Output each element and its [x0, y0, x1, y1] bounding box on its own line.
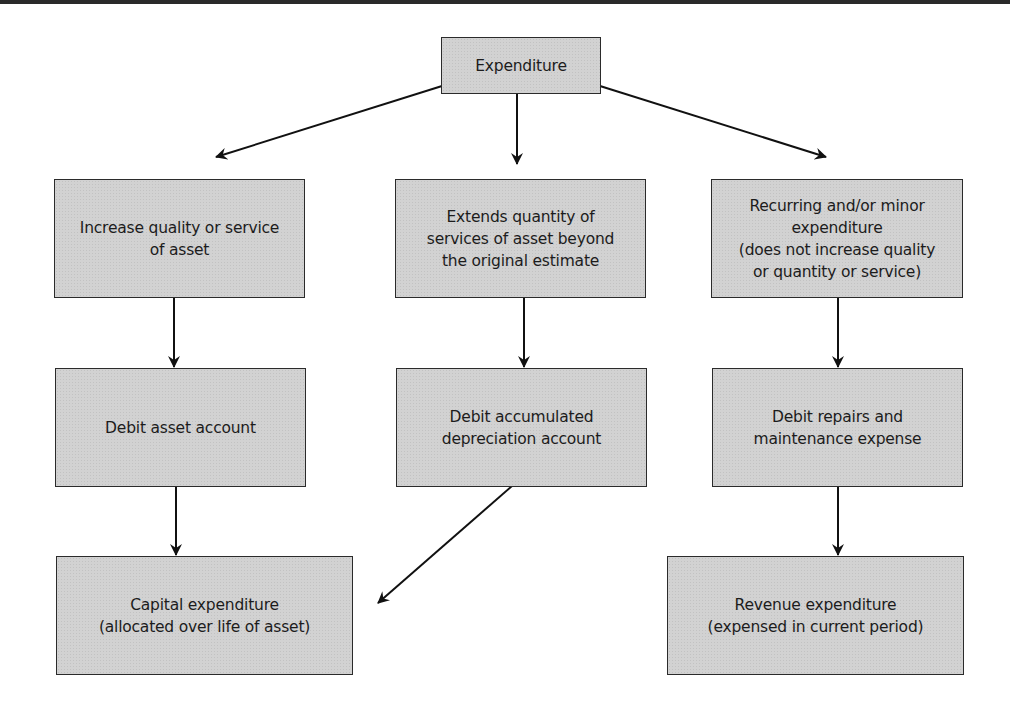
node-debit-accumulated-depreciation: Debit accumulated depreciation account	[396, 368, 647, 487]
node-label: Debit asset account	[105, 417, 256, 439]
node-label: Capital expenditure (allocated over life…	[99, 594, 310, 638]
node-extends-quantity: Extends quantity of services of asset be…	[395, 179, 646, 298]
node-label: Expenditure	[475, 55, 567, 77]
node-increase-quality: Increase quality or service of asset	[54, 179, 305, 298]
node-expenditure: Expenditure	[441, 37, 601, 94]
node-debit-asset: Debit asset account	[55, 368, 306, 487]
arrow-debit-depreciation-to-capital	[378, 486, 512, 603]
node-revenue-expenditure: Revenue expenditure (expensed in current…	[667, 556, 964, 675]
arrow-root-to-quality	[216, 86, 442, 157]
node-capital-expenditure: Capital expenditure (allocated over life…	[56, 556, 353, 675]
node-label: Revenue expenditure (expensed in current…	[708, 594, 924, 638]
node-label: Debit accumulated depreciation account	[442, 406, 601, 450]
node-recurring-minor: Recurring and/or minor expenditure (does…	[711, 179, 963, 298]
node-label: Recurring and/or minor expenditure (does…	[739, 195, 935, 283]
arrow-root-to-recurring	[600, 86, 826, 157]
node-debit-repairs: Debit repairs and maintenance expense	[712, 368, 963, 487]
node-label: Debit repairs and maintenance expense	[754, 406, 922, 450]
node-label: Extends quantity of services of asset be…	[427, 206, 614, 272]
node-label: Increase quality or service of asset	[80, 217, 279, 261]
